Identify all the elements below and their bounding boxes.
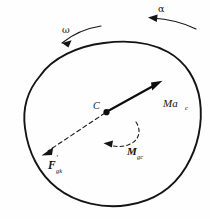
alpha-label: α xyxy=(158,3,165,14)
inertia-force-resultant-text: Ma xyxy=(162,97,178,109)
mechanics-diagram: ω α C Ma c M gc F ′ gk xyxy=(0,0,210,219)
inertia-force-text: F xyxy=(47,159,56,171)
center-of-mass-dot xyxy=(103,109,109,115)
omega-label: ω xyxy=(62,24,70,35)
inertia-moment-subscript: gc xyxy=(137,153,143,160)
center-of-mass-label: C xyxy=(93,100,100,111)
inertia-force-prime: ′ xyxy=(56,154,58,163)
inertia-force-subscript: gk xyxy=(56,167,62,174)
